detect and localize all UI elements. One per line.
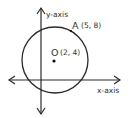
center-coords: (2, 4) xyxy=(60,48,80,57)
y-axis-label: y-axis xyxy=(46,10,68,19)
center-label: O xyxy=(51,47,58,58)
x-axis-label: x-axis xyxy=(97,86,119,95)
coordinate-diagram: y-axis x-axis A (5, 8) O (2, 4) xyxy=(0,0,131,118)
center-point-dot xyxy=(52,59,55,62)
y-axis-line xyxy=(37,8,45,114)
point-a-coords: (5, 8) xyxy=(81,21,101,30)
point-a-label: A xyxy=(72,20,79,31)
x-axis-line xyxy=(9,76,120,84)
